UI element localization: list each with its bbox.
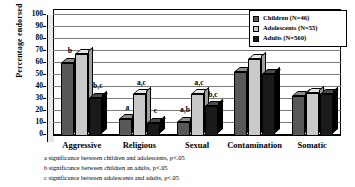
significance-marker: b,c bbox=[93, 82, 102, 90]
legend-swatch-icon bbox=[253, 26, 259, 32]
bar-face bbox=[147, 123, 160, 136]
significance-marker: a,b bbox=[180, 106, 190, 114]
bar-face bbox=[306, 93, 319, 136]
legend-label: Adults (N=560) bbox=[263, 35, 306, 42]
y-tick-mark bbox=[43, 98, 46, 99]
bar-contamination-s2[interactable] bbox=[262, 74, 275, 136]
bar-face bbox=[75, 54, 88, 136]
y-tick-mark bbox=[43, 110, 46, 111]
bar-face bbox=[234, 72, 247, 136]
category-label-religious: Religious bbox=[123, 140, 157, 150]
significance-marker: a,c bbox=[195, 79, 204, 87]
legend-swatch-icon bbox=[253, 16, 259, 22]
bar-face bbox=[133, 94, 146, 136]
y-axis-tick-labels: 1009080706050403020100 bbox=[0, 0, 46, 127]
bar-contamination-s1[interactable] bbox=[248, 59, 261, 136]
bar-face bbox=[320, 94, 333, 136]
bar-group-religious: aa,cc bbox=[119, 9, 160, 136]
bar-face bbox=[248, 59, 261, 136]
legend-swatch-icon bbox=[253, 36, 259, 42]
legend-label: Children (N=46) bbox=[263, 15, 309, 22]
significance-marker: a bbox=[126, 104, 130, 112]
chart-figure: Percentage endorsed 10090807060504030201… bbox=[0, 0, 355, 187]
legend-item-0[interactable]: Children (N=46) bbox=[253, 14, 343, 23]
legend-item-2[interactable]: Adults (N=560) bbox=[253, 34, 343, 43]
y-tick-80: 80 bbox=[36, 34, 44, 42]
footnote-1: b significance between children an adult… bbox=[44, 163, 344, 173]
bar-somatic-s0[interactable] bbox=[292, 96, 305, 136]
y-tick-20: 20 bbox=[36, 106, 44, 114]
y-tick-mark bbox=[43, 122, 46, 123]
y-tick-10: 10 bbox=[36, 118, 44, 126]
legend-label: Adolescents (N=55) bbox=[263, 25, 318, 32]
y-tick-100: 100 bbox=[32, 10, 43, 18]
bar-group-aggressive: bb,c bbox=[61, 9, 102, 136]
significance-marker: c bbox=[154, 107, 157, 115]
y-tick-mark bbox=[43, 26, 46, 27]
y-tick-50: 50 bbox=[36, 70, 44, 78]
bar-contamination-s0[interactable] bbox=[234, 72, 247, 136]
y-tick-40: 40 bbox=[36, 82, 44, 90]
bar-aggressive-s2[interactable] bbox=[89, 98, 102, 136]
significance-marker: b,c bbox=[208, 91, 217, 99]
bar-side-face bbox=[275, 66, 280, 133]
bar-face bbox=[61, 63, 74, 136]
bar-face bbox=[191, 94, 204, 136]
bar-side-face bbox=[218, 99, 223, 133]
bar-side-face bbox=[160, 116, 165, 133]
legend: Children (N=46)Adolescents (N=55)Adults … bbox=[249, 10, 347, 47]
bar-somatic-s2[interactable] bbox=[320, 94, 333, 136]
y-tick-mark bbox=[43, 86, 46, 87]
bar-aggressive-s1[interactable] bbox=[75, 54, 88, 136]
bar-sexual-s2[interactable] bbox=[205, 106, 218, 136]
y-tick-30: 30 bbox=[36, 94, 44, 102]
y-tick-mark bbox=[43, 50, 46, 51]
footnote-2: c significance between adolescents and a… bbox=[44, 173, 344, 183]
category-label-aggressive: Aggressive bbox=[62, 140, 101, 150]
bar-religious-s2[interactable] bbox=[147, 123, 160, 136]
bar-face bbox=[89, 98, 102, 136]
bar-sexual-s1[interactable] bbox=[191, 94, 204, 136]
y-tick-mark bbox=[43, 134, 46, 135]
category-label-contamination: Contamination bbox=[227, 140, 282, 150]
significance-marker: a,c bbox=[137, 79, 146, 87]
bar-side-face bbox=[333, 87, 338, 133]
bar-face bbox=[292, 96, 305, 136]
y-tick-mark bbox=[43, 38, 46, 39]
footnotes: a significance between children and adol… bbox=[44, 153, 344, 183]
category-label-sexual: Sexual bbox=[185, 140, 209, 150]
y-tick-mark bbox=[43, 14, 46, 15]
bar-side-face bbox=[102, 90, 107, 133]
bar-religious-s1[interactable] bbox=[133, 94, 146, 136]
bar-group-sexual: a,ba,cb,c bbox=[177, 9, 218, 136]
category-label-somatic: Somatic bbox=[298, 140, 327, 150]
legend-item-1[interactable]: Adolescents (N=55) bbox=[253, 24, 343, 33]
bar-somatic-s1[interactable] bbox=[306, 93, 319, 136]
bar-sexual-s0[interactable] bbox=[177, 122, 190, 136]
bar-face bbox=[262, 74, 275, 136]
bar-religious-s0[interactable] bbox=[119, 119, 132, 136]
bar-aggressive-s0[interactable] bbox=[61, 63, 74, 136]
significance-marker: b bbox=[68, 47, 72, 55]
y-tick-90: 90 bbox=[36, 22, 44, 30]
y-tick-70: 70 bbox=[36, 46, 44, 54]
bar-face bbox=[177, 122, 190, 136]
y-tick-mark bbox=[43, 62, 46, 63]
bar-face bbox=[119, 119, 132, 136]
bar-face bbox=[205, 106, 218, 136]
y-tick-mark bbox=[43, 74, 46, 75]
y-tick-60: 60 bbox=[36, 58, 44, 66]
footnote-0: a significance between children and adol… bbox=[44, 153, 344, 163]
x-axis-category-labels: AggressiveReligiousSexualContaminationSo… bbox=[53, 140, 341, 152]
